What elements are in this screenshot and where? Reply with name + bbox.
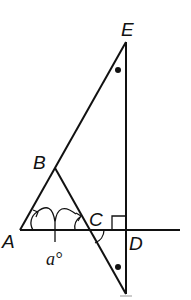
angle-arc-a: [31, 212, 37, 230]
geometry-diagram: E B A C D a°: [0, 0, 191, 300]
label-b: B: [33, 152, 46, 173]
label-a: A: [1, 231, 15, 252]
label-d: D: [129, 233, 143, 254]
label-e: E: [121, 19, 134, 40]
angle-label: a°: [46, 249, 62, 269]
label-c: C: [89, 209, 103, 230]
angle-dot-bottom: [115, 264, 121, 270]
angle-brace: [37, 208, 76, 242]
right-angle-mark: [112, 216, 126, 230]
angle-dot-e: [115, 67, 121, 73]
